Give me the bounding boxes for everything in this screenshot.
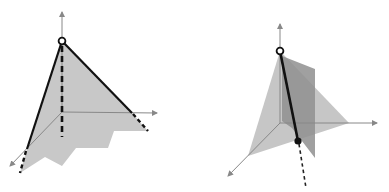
right-3d-diagram — [194, 0, 389, 192]
shaded-surface — [20, 41, 148, 173]
y-axis — [228, 123, 280, 176]
figure-right-planes — [194, 0, 389, 192]
left-3d-diagram — [0, 0, 194, 192]
filled-point — [294, 137, 301, 144]
apex-open-circle — [59, 38, 66, 45]
dashed-continuation — [299, 144, 306, 188]
figure-left-surface — [0, 0, 194, 192]
apex-open-circle — [277, 48, 284, 55]
